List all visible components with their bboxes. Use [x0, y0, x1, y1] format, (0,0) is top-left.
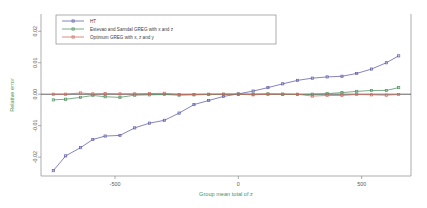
legend-label: Estevao and Sarndal GREG with x and z: [90, 27, 174, 32]
y-tick-label: -0.01: [32, 120, 38, 132]
series-0: [52, 55, 400, 172]
legend-label: HT: [90, 19, 96, 24]
x-tick-label: 0: [237, 181, 240, 187]
series-line: [53, 56, 398, 171]
relative-error-chart: -0.02-0.010.000.010.02-5000500 Group mea…: [0, 0, 427, 208]
data-series-group: [52, 55, 400, 172]
y-tick-label: 0.00: [32, 89, 38, 100]
tick-labels-group: -0.02-0.010.000.010.02-5000500: [32, 26, 366, 187]
y-axis-title: Relative error: [9, 78, 15, 112]
legend-label: Optimum GREG with x, z and y: [90, 35, 155, 40]
y-tick-label: 0.02: [32, 26, 38, 37]
chart-legend: HTEstevao and Sarndal GREG with x and zO…: [56, 15, 276, 44]
y-tick-label: -0.02: [32, 151, 38, 163]
x-axis-title: Group mean total of z: [199, 191, 253, 197]
y-tick-label: 0.01: [32, 58, 38, 68]
x-tick-label: -500: [110, 181, 121, 187]
chart-canvas: -0.02-0.010.000.010.02-5000500 Group mea…: [0, 0, 427, 208]
x-tick-label: 500: [357, 181, 366, 187]
